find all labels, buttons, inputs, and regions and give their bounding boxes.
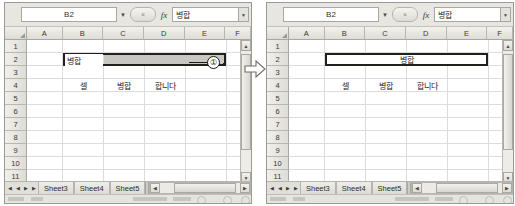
cell-d4[interactable]: 합니다 [407, 79, 447, 92]
row-header[interactable]: 4 [267, 79, 289, 92]
cell-d4[interactable]: 합니다 [145, 79, 185, 92]
row-header[interactable]: 6 [267, 105, 289, 118]
first-sheet-icon[interactable]: ◀ [6, 185, 13, 191]
row-header[interactable]: 7 [5, 118, 27, 131]
vertical-scrollbar-thumb[interactable] [503, 54, 513, 150]
sheet-tab-sheet5[interactable]: Sheet5 [110, 182, 146, 194]
status-text-blur [31, 197, 43, 201]
row-header[interactable]: 2 [267, 53, 289, 66]
name-box[interactable]: B2 [283, 7, 379, 22]
scroll-up-icon[interactable]: ▲ [241, 40, 251, 51]
column-header-f[interactable]: F [225, 27, 251, 40]
scroll-up-icon[interactable]: ▲ [503, 40, 513, 51]
select-all-corner-right[interactable] [267, 27, 289, 40]
zoom-control-blur [197, 196, 206, 203]
gridline-h [289, 143, 513, 144]
prev-sheet-icon[interactable]: ◀ [14, 185, 21, 191]
cell-b4[interactable]: 셀 [325, 79, 365, 92]
hscroll-right-icon[interactable]: ▶ [502, 183, 512, 193]
sheet-tab-sheet4[interactable]: Sheet4 [336, 182, 372, 194]
formula-bar-expand-icon[interactable]: ▼ [238, 7, 249, 22]
row-header[interactable]: 8 [5, 131, 27, 144]
formula-bar-value: 병합 [438, 9, 452, 20]
sheet-tab-sheet4[interactable]: Sheet4 [74, 182, 110, 194]
hscroll-right-icon[interactable]: ▶ [240, 183, 250, 193]
row-header[interactable]: 5 [5, 92, 27, 105]
column-header-e[interactable]: E [447, 27, 488, 40]
row-header[interactable]: 3 [5, 66, 27, 79]
insert-function-icon[interactable]: fx [156, 10, 172, 20]
horizontal-scrollbar-thumb[interactable] [174, 183, 236, 193]
row-header[interactable]: 10 [5, 157, 27, 170]
row-header[interactable]: 8 [267, 131, 289, 144]
row-header[interactable]: 2 [5, 53, 27, 66]
row-header[interactable]: 9 [5, 144, 27, 157]
cell-b4-text: 셀 [80, 80, 87, 91]
last-sheet-icon[interactable]: ▶ [292, 185, 299, 191]
horizontal-scrollbar-left[interactable]: ◀ ▶ [149, 182, 251, 194]
column-header-a[interactable]: A [289, 27, 325, 40]
sheet-tab-sheet3[interactable]: Sheet3 [38, 182, 74, 194]
formula-bar-expand-icon[interactable]: ▼ [500, 7, 511, 22]
row-header[interactable]: 4 [5, 79, 27, 92]
row-header[interactable]: 6 [5, 105, 27, 118]
sheet-tab-sheet5[interactable]: Sheet5 [372, 182, 408, 194]
gridline-h [289, 130, 513, 131]
cancel-icon[interactable]: × [141, 11, 145, 18]
horizontal-scrollbar-thumb[interactable] [436, 183, 498, 193]
merged-cell-text: 병합 [400, 54, 414, 65]
formula-bar-input[interactable]: 병합 [434, 7, 501, 22]
hscroll-left-icon[interactable]: ◀ [150, 183, 160, 193]
column-header-c[interactable]: C [365, 27, 406, 40]
next-sheet-icon[interactable]: ▶ [22, 185, 29, 191]
gridline-v [488, 40, 489, 183]
insert-function-icon[interactable]: fx [418, 10, 434, 20]
column-header-d[interactable]: D [144, 27, 185, 40]
row-header[interactable]: 9 [267, 144, 289, 157]
column-header-d[interactable]: D [406, 27, 447, 40]
row-header[interactable]: 5 [267, 92, 289, 105]
hscroll-left-icon[interactable]: ◀ [412, 183, 422, 193]
next-sheet-icon[interactable]: ▶ [284, 185, 291, 191]
select-all-corner-left[interactable] [5, 27, 27, 40]
status-text-blur [270, 197, 286, 201]
column-header-e[interactable]: E [185, 27, 226, 40]
cancel-icon[interactable]: × [403, 11, 407, 18]
row-header[interactable]: 1 [267, 40, 289, 53]
name-box-dropdown-icon[interactable]: ▼ [117, 7, 129, 22]
gridline-h [289, 169, 513, 170]
prev-sheet-icon[interactable]: ◀ [276, 185, 283, 191]
cell-c4[interactable]: 병합 [104, 79, 144, 92]
cells-area-right[interactable]: 병합 셀 병합 합니다 [289, 40, 513, 183]
fill-handle[interactable] [223, 63, 226, 66]
row-header[interactable]: 1 [5, 40, 27, 53]
formula-bar-buttons-group[interactable]: × [130, 7, 156, 22]
vertical-scrollbar-right[interactable]: ▲ ▼ [502, 40, 513, 183]
first-sheet-icon[interactable]: ◀ [268, 185, 275, 191]
formula-bar-buttons-group[interactable]: × [392, 7, 418, 22]
horizontal-scrollbar-right[interactable]: ◀ ▶ [411, 182, 513, 194]
status-text-blur [435, 197, 453, 201]
cell-d4-text: 합니다 [155, 80, 176, 91]
column-header-a[interactable]: A [27, 27, 63, 40]
formula-bar-row-left: B2 ▼ × fx 병합 ▼ [5, 3, 251, 27]
name-box-dropdown-icon[interactable]: ▼ [379, 7, 391, 22]
cell-b4[interactable]: 셀 [63, 79, 103, 92]
column-header-f[interactable]: F [487, 27, 513, 40]
callout-marker-1: ① [207, 56, 220, 69]
fx-label: fx [423, 10, 430, 20]
column-header-b[interactable]: B [325, 27, 366, 40]
cell-c4[interactable]: 병합 [366, 79, 406, 92]
cell-b2[interactable]: 병합 [65, 54, 103, 67]
row-header[interactable]: 7 [267, 118, 289, 131]
column-header-c[interactable]: C [103, 27, 144, 40]
row-header[interactable]: 3 [267, 66, 289, 79]
column-header-b[interactable]: B [63, 27, 104, 40]
name-box[interactable]: B2 [21, 7, 117, 22]
gridline-h [27, 156, 251, 157]
formula-bar-input[interactable]: 병합 [172, 7, 239, 22]
sheet-tab-sheet3[interactable]: Sheet3 [300, 182, 336, 194]
merged-cell-b2-d2[interactable]: 병합 [325, 53, 488, 66]
row-header[interactable]: 10 [267, 157, 289, 170]
last-sheet-icon[interactable]: ▶ [30, 185, 37, 191]
